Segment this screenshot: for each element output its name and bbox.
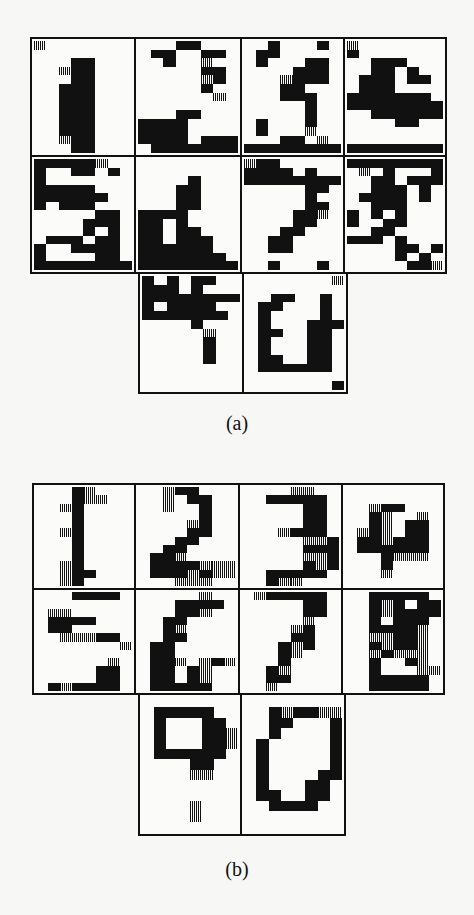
bitmap-pixel [371,144,383,153]
bitmap-pixel [138,261,151,270]
bitmap-pixel [36,537,48,545]
bitmap-pixel [371,67,383,76]
bitmap-pixel [226,790,238,800]
bitmap-pixel [167,302,179,311]
bitmap-pixel [142,294,154,303]
bitmap-pixel [175,625,187,633]
bitmap-pixel [307,381,319,390]
bitmap-pixel [138,537,150,545]
caption-b: (b) [0,858,474,881]
bitmap-pixel [271,276,283,285]
bitmap-pixel [138,41,151,50]
bitmap-pixel [201,210,214,219]
bitmap-pixel [138,210,151,219]
bitmap-pixel [431,110,443,119]
bitmap-pixel [216,329,228,338]
bitmap-pixel [393,545,405,553]
bitmap-pixel [175,650,187,658]
bitmap-pixel [329,58,341,67]
bitmap-pixel [201,185,214,194]
bitmap-pixel [329,127,341,136]
bitmap-pixel [142,697,154,707]
bitmap-pixel [71,50,83,59]
bitmap-pixel [256,67,268,76]
bitmap-pixel [417,633,429,641]
bitmap-pixel [278,570,290,578]
bitmap-pixel [201,168,214,177]
bitmap-pixel [395,93,407,102]
bitmap-pixel [187,545,199,553]
bitmap-pixel [429,487,441,495]
bitmap-pixel [138,93,151,102]
bitmap-pixel [179,346,191,355]
bitmap-pixel [71,93,83,102]
bitmap-pixel [307,372,319,381]
bitmap-pixel [417,495,429,503]
bitmap-pixel [244,739,256,749]
bitmap-pixel [345,666,357,674]
bitmap-pixel [283,364,295,373]
bitmap-pixel [268,168,280,177]
bitmap-pixel [303,487,315,495]
bitmap-pixel [138,193,151,202]
bitmap-pixel [213,219,226,228]
bitmap-pixel [305,780,317,790]
bitmap-pixel [179,294,191,303]
bitmap-pixel [303,537,315,545]
bitmap-pixel [48,553,60,561]
bitmap-pixel [188,219,201,228]
bitmap-pixel [244,811,256,821]
bitmap-pixel [305,75,317,84]
bitmap-pixel [359,101,371,110]
bitmap-pixel [317,101,329,110]
bitmap-pixel [190,811,202,821]
bitmap-pixel [407,185,419,194]
bitmap-pixel [381,625,393,633]
bitmap-pixel [83,136,95,145]
bitmap-pixel [320,276,332,285]
bitmap-pixel [199,625,211,633]
bitmap-pixel [216,302,228,311]
bitmap-pixel [371,261,383,270]
bitmap-pixel [307,355,319,364]
bitmap-pixel [315,495,327,503]
bitmap-pixel [431,261,443,270]
bitmap-pixel [278,600,290,608]
bitmap-pixel [213,176,226,185]
bitmap-pixel [178,790,190,800]
bitmap-pixel [293,193,305,202]
bitmap-pixel [163,127,176,136]
bitmap-pixel [266,592,278,600]
bitmap-pixel [187,650,199,658]
bitmap-pixel [96,658,108,666]
bitmap-pixel [407,50,419,59]
bitmap-pixel [228,372,240,381]
bitmap-pixel [419,119,431,128]
bitmap-pixel [138,50,151,59]
bitmap-pixel [167,320,179,329]
bitmap-pixel [190,728,202,738]
bitmap-pixel [246,294,258,303]
bitmap-pixel [60,633,72,641]
bitmap-pixel [36,561,48,569]
bitmap-pixel [320,285,332,294]
bitmap-pixel [305,244,317,253]
bitmap-pixel [381,600,393,608]
bitmap-pixel [151,261,164,270]
bitmap-pixel [188,119,201,128]
bitmap-pixel [305,749,317,759]
bitmap-pixel [381,545,393,553]
bitmap-pixel [150,528,162,536]
bitmap-pixel [268,244,280,253]
bitmap-pixel [176,84,189,93]
bitmap-pixel [242,553,254,561]
digit-cell-b-7 [238,588,343,695]
bitmap-pixel [83,41,95,50]
bitmap-pixel [280,236,292,245]
bitmap-pixel [381,495,393,503]
bitmap-pixel [36,545,48,553]
bitmap-pixel [307,302,319,311]
bitmap-pixel [371,58,383,67]
bitmap-pixel [95,67,107,76]
bitmap-pixel [330,801,342,811]
